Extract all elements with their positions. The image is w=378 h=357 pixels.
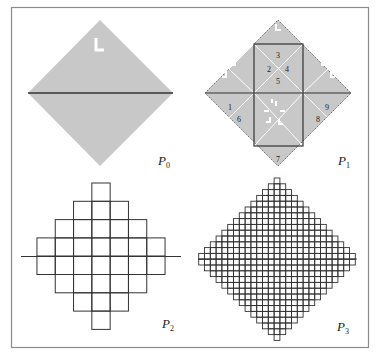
grid-cell xyxy=(280,236,286,242)
grid-cell xyxy=(292,236,298,242)
grid-cell xyxy=(315,219,321,225)
grid-cell xyxy=(110,293,128,311)
grid-cell xyxy=(268,271,274,277)
grid-cell xyxy=(239,224,245,230)
grid-cell xyxy=(268,195,274,201)
grid-cell xyxy=(280,195,286,201)
grid-cell xyxy=(326,236,332,242)
grid-cell xyxy=(239,288,245,294)
grid-cell xyxy=(338,248,344,254)
grid-cell xyxy=(110,220,128,238)
grid-cell xyxy=(263,300,269,306)
grid-cell xyxy=(280,329,286,335)
grid-cell xyxy=(92,311,110,329)
grid-cell xyxy=(292,207,298,213)
grid-cell xyxy=(344,265,350,271)
grid-cell xyxy=(326,253,332,259)
grid-cell xyxy=(280,253,286,259)
grid-cell xyxy=(303,306,309,312)
grid-cell xyxy=(257,201,263,207)
p1-region-3: 3 xyxy=(276,51,280,60)
grid-cell xyxy=(257,288,263,294)
grid-cell xyxy=(309,213,315,219)
grid-cell xyxy=(245,253,251,259)
grid-cell xyxy=(286,207,292,213)
grid-cell xyxy=(326,277,332,283)
grid-cell xyxy=(292,311,298,317)
grid-cell xyxy=(251,259,257,265)
grid-cell xyxy=(210,242,216,248)
grid-cell xyxy=(251,300,257,306)
grid-cell xyxy=(92,183,110,201)
grid-cell xyxy=(257,265,263,271)
grid-cell xyxy=(280,282,286,288)
grid-cell xyxy=(309,259,315,265)
grid-cell xyxy=(280,248,286,254)
grid-cell xyxy=(205,265,211,271)
grid-cell xyxy=(315,259,321,265)
grid-cell xyxy=(332,242,338,248)
grid-cell xyxy=(216,242,222,248)
grid-cell xyxy=(216,259,222,265)
grid-cell xyxy=(199,259,205,265)
grid-cell xyxy=(74,220,92,238)
grid-cell xyxy=(303,300,309,306)
grid-cell xyxy=(210,259,216,265)
p1-region-9: 9 xyxy=(325,103,329,112)
grid-cell xyxy=(245,259,251,265)
grid-cell xyxy=(251,277,257,283)
grid-cell xyxy=(338,253,344,259)
grid-cell xyxy=(292,242,298,248)
grid-cell xyxy=(222,271,228,277)
grid-cell xyxy=(286,224,292,230)
grid-cell xyxy=(274,317,280,323)
panel-p0: P0 xyxy=(28,20,173,170)
grid-cell xyxy=(257,213,263,219)
grid-cell xyxy=(297,277,303,283)
grid-cell xyxy=(309,265,315,271)
grid-cell xyxy=(268,311,274,317)
grid-cell xyxy=(251,288,257,294)
grid-cell xyxy=(309,236,315,242)
grid-cell xyxy=(263,271,269,277)
grid-cell xyxy=(350,253,356,259)
grid-cell xyxy=(251,294,257,300)
grid-cell xyxy=(303,219,309,225)
grid-cell xyxy=(326,230,332,236)
p1-region-1: 1 xyxy=(228,103,232,112)
grid-cell xyxy=(92,275,110,293)
grid-cell xyxy=(297,311,303,317)
grid-cell xyxy=(228,288,234,294)
grid-cell xyxy=(315,230,321,236)
grid-cell xyxy=(326,282,332,288)
grid-cell xyxy=(234,248,240,254)
figure-canvas: P0 3 xyxy=(0,0,378,357)
grid-cell xyxy=(251,253,257,259)
grid-cell xyxy=(292,288,298,294)
grid-cell xyxy=(332,253,338,259)
grid-cell xyxy=(274,190,280,196)
grid-cell xyxy=(263,236,269,242)
grid-cell xyxy=(216,236,222,242)
grid-cell xyxy=(268,306,274,312)
grid-cell xyxy=(321,230,327,236)
grid-cell xyxy=(222,242,228,248)
grid-cell xyxy=(286,213,292,219)
grid-cell xyxy=(239,282,245,288)
grid-cell xyxy=(297,248,303,254)
grid-cell xyxy=(292,300,298,306)
grid-cell xyxy=(292,219,298,225)
grid-cell xyxy=(309,300,315,306)
grid-cell xyxy=(205,259,211,265)
grid-cell xyxy=(297,282,303,288)
grid-cell xyxy=(292,271,298,277)
grid-cell xyxy=(234,259,240,265)
grid-cell xyxy=(321,282,327,288)
grid-cell xyxy=(268,265,274,271)
grid-cell xyxy=(239,230,245,236)
grid-cell xyxy=(280,317,286,323)
grid-cell xyxy=(263,317,269,323)
grid-cell xyxy=(286,271,292,277)
grid-cell xyxy=(245,207,251,213)
grid-cell xyxy=(280,213,286,219)
